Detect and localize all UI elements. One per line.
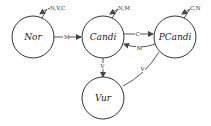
edge-nor-candi: M: [54, 34, 81, 40]
edge-nor-self: N,V,C: [40, 5, 65, 18]
edge-label-pcandi-self: C,N: [190, 5, 201, 11]
node-vur: Vur: [82, 77, 124, 119]
edge-label-nor-self: N,V,C: [50, 5, 65, 11]
node-candi: Candi: [82, 16, 124, 58]
node-label-pcandi: PCandi: [158, 32, 192, 42]
edge-candi-vur: V: [100, 58, 107, 77]
edge-label-nor-candi: M: [64, 34, 70, 40]
node-nor: Nor: [12, 16, 54, 58]
state-diagram: N,V,C M N,M C M C,N V V: [0, 0, 211, 126]
edge-pcandi-candi: M: [124, 44, 155, 51]
edge-candi-self: N,M: [110, 5, 130, 18]
edge-label-candi-self: N,M: [118, 5, 130, 11]
edge-label-pcandi-candi: M: [137, 45, 143, 51]
node-pcandi: PCandi: [154, 16, 196, 58]
node-label-vur: Vur: [95, 93, 112, 103]
edge-candi-pcandi: C: [124, 31, 153, 37]
node-label-nor: Nor: [23, 32, 42, 42]
edge-pcandi-vur: V: [123, 52, 159, 86]
edge-pcandi-self: C,N: [182, 5, 201, 18]
edge-label-candi-pcandi: C: [136, 31, 140, 37]
node-label-candi: Candi: [90, 32, 117, 42]
